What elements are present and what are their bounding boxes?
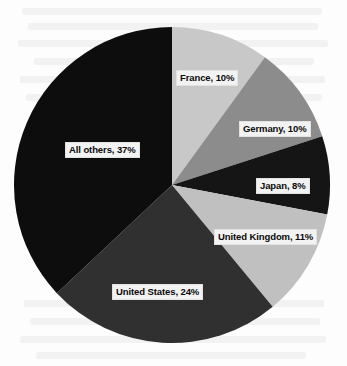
slice-label-germany: Germany, 10% (239, 121, 311, 137)
slice-label-japan: Japan, 8% (256, 178, 310, 194)
slice-label-united-states: United States, 24% (112, 284, 203, 300)
pie-labels-layer: France, 10% Germany, 10% Japan, 8% Unite… (0, 0, 347, 366)
slice-label-france: France, 10% (176, 70, 238, 86)
slice-label-all-others: All others, 37% (65, 142, 140, 158)
slice-label-united-kingdom: United Kingdom, 11% (214, 229, 317, 245)
pie-chart-figure: France, 10% Germany, 10% Japan, 8% Unite… (0, 0, 347, 366)
